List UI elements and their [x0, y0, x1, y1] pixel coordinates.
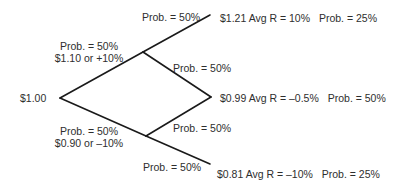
leaf-middle: $0.99 Avg R = –0.5% Prob. = 50%: [220, 92, 386, 104]
up-up-prob: Prob. = 50%: [142, 11, 200, 23]
leaf-top-avg-r: Avg R = 10%: [249, 12, 310, 24]
leaf-bottom-value: $0.81: [217, 168, 243, 180]
down-branch-outcome: $0.90 or –10%: [52, 137, 126, 149]
up-branch-outcome: $1.10 or +10%: [52, 52, 126, 64]
up-branch-prob: Prob. = 50%: [52, 40, 126, 52]
leaf-middle-avg-r: Avg R = –0.5%: [249, 92, 319, 104]
leaf-bottom-avg-r: Avg R = –10%: [246, 168, 313, 180]
branch-down-down: [146, 136, 210, 164]
down-up-prob: Prob. = 50%: [173, 122, 231, 134]
leaf-bottom-prob: Prob. = 25%: [322, 168, 380, 180]
leaf-top-prob: Prob. = 25%: [319, 12, 377, 24]
branch-up-down: [143, 52, 211, 97]
down-branch-label: Prob. = 50% $0.90 or –10%: [52, 125, 126, 149]
leaf-bottom: $0.81 Avg R = –10% Prob. = 25%: [217, 168, 380, 180]
up-branch-label: Prob. = 50% $1.10 or +10%: [52, 40, 126, 64]
down-down-prob: Prob. = 50%: [143, 161, 201, 173]
up-down-prob: Prob. = 50%: [173, 62, 231, 74]
down-branch-prob: Prob. = 50%: [52, 125, 126, 137]
leaf-middle-value: $0.99: [220, 92, 246, 104]
leaf-top: $1.21 Avg R = 10% Prob. = 25%: [220, 12, 377, 24]
leaf-top-value: $1.21: [220, 12, 246, 24]
leaf-middle-prob: Prob. = 50%: [328, 92, 386, 104]
root-value: $1.00: [20, 92, 46, 104]
